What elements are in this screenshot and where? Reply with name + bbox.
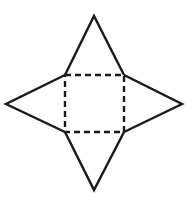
dashed-base-square <box>65 75 124 132</box>
triangle-face-top <box>65 16 124 75</box>
triangle-face-bottom <box>65 132 124 190</box>
triangle-face-right <box>124 75 182 132</box>
triangle-faces <box>6 16 182 190</box>
pyramid-net-diagram <box>0 0 195 198</box>
triangle-face-left <box>6 75 65 132</box>
base-square <box>65 75 124 132</box>
net-svg <box>0 0 195 198</box>
